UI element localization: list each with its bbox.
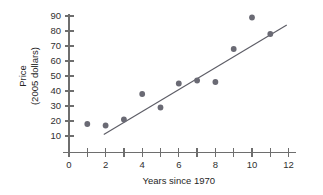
x-axis-tick-label: 2 (103, 159, 108, 170)
y-axis-title-line1: Price (17, 65, 28, 87)
data-point (176, 81, 182, 87)
y-axis-tick-label: 60 (50, 55, 61, 66)
y-axis-tick-label: 50 (50, 70, 61, 81)
y-axis-tick-label: 20 (50, 115, 61, 126)
y-axis-tick-label: 10 (50, 130, 61, 141)
y-axis-title-line2: (2005 dollars) (29, 47, 40, 105)
scatter-plot-figure: 102030405060708090024681012Years since 1… (0, 0, 323, 195)
x-axis-tick-label: 10 (247, 159, 258, 170)
x-axis-tick-label: 4 (140, 159, 145, 170)
x-axis-tick-label: 8 (213, 159, 218, 170)
x-axis-tick-label: 6 (176, 159, 181, 170)
data-point (249, 15, 255, 21)
x-axis-tick-label: 12 (283, 159, 294, 170)
x-axis-title: Years since 1970 (143, 175, 216, 186)
y-axis-tick-label: 40 (50, 85, 61, 96)
data-point (231, 46, 237, 52)
data-point (103, 123, 109, 129)
data-point (158, 105, 164, 111)
plot-area: 102030405060708090024681012Years since 1… (0, 0, 323, 195)
x-axis-tick-label: 0 (66, 159, 71, 170)
data-point (267, 31, 273, 37)
data-point (139, 91, 145, 97)
y-axis-tick-label: 90 (50, 10, 61, 21)
data-point (213, 79, 219, 85)
y-axis-tick-label: 30 (50, 100, 61, 111)
y-axis-tick-label: 80 (50, 25, 61, 36)
data-point (194, 78, 200, 84)
data-point (84, 121, 90, 127)
data-point (121, 117, 127, 123)
y-axis-tick-label: 70 (50, 40, 61, 51)
